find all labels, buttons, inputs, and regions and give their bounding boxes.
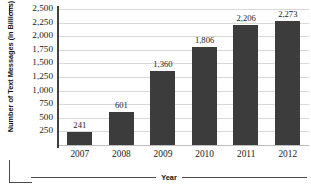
bar-slot: 2,206 — [225, 9, 267, 145]
x-axis-tick-label: 2007 — [59, 149, 101, 160]
bar-value-label: 2,206 — [225, 14, 267, 23]
bar-slot: 2,273 — [267, 9, 309, 145]
x-axis-title: Year — [161, 173, 177, 182]
y-axis-tick-label: 500 — [21, 113, 53, 122]
bar-value-label: 2,273 — [267, 10, 309, 19]
bar-value-label: 241 — [59, 121, 101, 130]
bar-chart: Number of Text Messages (in Billions) 2,… — [0, 0, 311, 195]
y-axis-tick-labels: 2,5002,2502,0001,7501,5001,2501,00075050… — [22, 0, 56, 145]
x-axis-tick-label: 2008 — [101, 149, 143, 160]
x-axis-tick-labels: 200720082009201020112012 — [59, 149, 309, 163]
bar[interactable] — [109, 112, 134, 145]
y-axis-tick-label: 750 — [21, 99, 53, 108]
x-axis-rule-right — [182, 177, 307, 178]
x-axis-tick-label: 2011 — [225, 149, 267, 160]
bar[interactable] — [192, 47, 217, 145]
y-axis-tick-label: 250 — [21, 126, 53, 135]
y-axis-tick-label: 2,250 — [21, 18, 53, 27]
x-axis-tick-label: 2012 — [267, 149, 309, 160]
plot-area: 2416011,3601,8062,2062,273 — [57, 9, 309, 145]
y-axis-tick-label: 1,000 — [21, 86, 53, 95]
bar-value-label: 1,806 — [184, 36, 226, 45]
bar-slot: 241 — [59, 9, 101, 145]
x-axis-tick-label: 2009 — [142, 149, 184, 160]
x-axis-rule-left — [31, 177, 156, 178]
bar-slot: 1,806 — [184, 9, 226, 145]
y-axis-tick-label: 1,250 — [21, 72, 53, 81]
bar-value-label: 1,360 — [142, 60, 184, 69]
bar-slot: 1,360 — [142, 9, 184, 145]
y-axis-tick-label: 2,500 — [21, 4, 53, 13]
bar-slot: 601 — [101, 9, 143, 145]
y-axis-title: Number of Text Messages (in Billions) — [6, 0, 15, 141]
bar-value-label: 601 — [101, 101, 143, 110]
bar[interactable] — [150, 71, 175, 145]
y-axis-tick-label: 1,500 — [21, 58, 53, 67]
x-axis-tick-label: 2010 — [184, 149, 226, 160]
bar[interactable] — [275, 21, 300, 145]
bar-series: 2416011,3601,8062,2062,273 — [59, 9, 309, 145]
axis-corner-bracket — [9, 160, 32, 183]
x-axis-baseline — [59, 145, 309, 146]
x-axis-title-group: Year — [31, 170, 307, 184]
bar[interactable] — [233, 25, 258, 145]
y-axis-title-group: Number of Text Messages (in Billions) — [0, 0, 16, 160]
bar[interactable] — [67, 132, 92, 145]
y-axis-tick-label: 1,750 — [21, 45, 53, 54]
y-axis-tick-label: 2,000 — [21, 31, 53, 40]
